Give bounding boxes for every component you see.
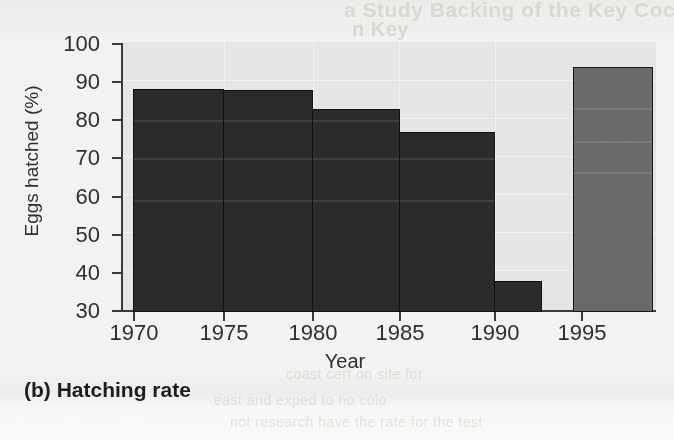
y-tick-30	[112, 310, 122, 312]
y-tick-40	[112, 272, 122, 274]
x-tick-label-1990: 1990	[455, 320, 535, 346]
x-axis-title: Year	[265, 350, 425, 373]
bar-1990	[494, 281, 542, 312]
y-axis-title: Eggs hatched (%)	[21, 51, 43, 271]
bar-1985	[399, 132, 495, 312]
y-tick-100	[112, 43, 122, 45]
y-tick-label-40: 40	[54, 260, 100, 286]
bar-1975	[223, 90, 313, 312]
x-tick-label-1980: 1980	[273, 320, 353, 346]
x-tick-label-1975: 1975	[184, 320, 264, 346]
y-tick-60	[112, 196, 122, 198]
y-tick-label-70: 70	[54, 145, 100, 171]
x-tick-label-1970: 1970	[94, 320, 174, 346]
x-tick-label-1995: 1995	[542, 320, 622, 346]
y-tick-label-90: 90	[54, 69, 100, 95]
y-tick-label-50: 50	[54, 222, 100, 248]
y-tick-label-60: 60	[54, 184, 100, 210]
bar-1980	[312, 109, 400, 312]
y-tick-50	[112, 234, 122, 236]
bar-1970	[133, 89, 224, 312]
y-tick-label-100: 100	[54, 31, 100, 57]
y-tick-80	[112, 119, 122, 121]
figure-caption: (b) Hatching rate	[24, 378, 191, 402]
y-tick-70	[112, 157, 122, 159]
bar-1995	[573, 67, 653, 312]
x-tick-label-1985: 1985	[360, 320, 440, 346]
y-tick-90	[112, 81, 122, 83]
y-tick-label-80: 80	[54, 107, 100, 133]
